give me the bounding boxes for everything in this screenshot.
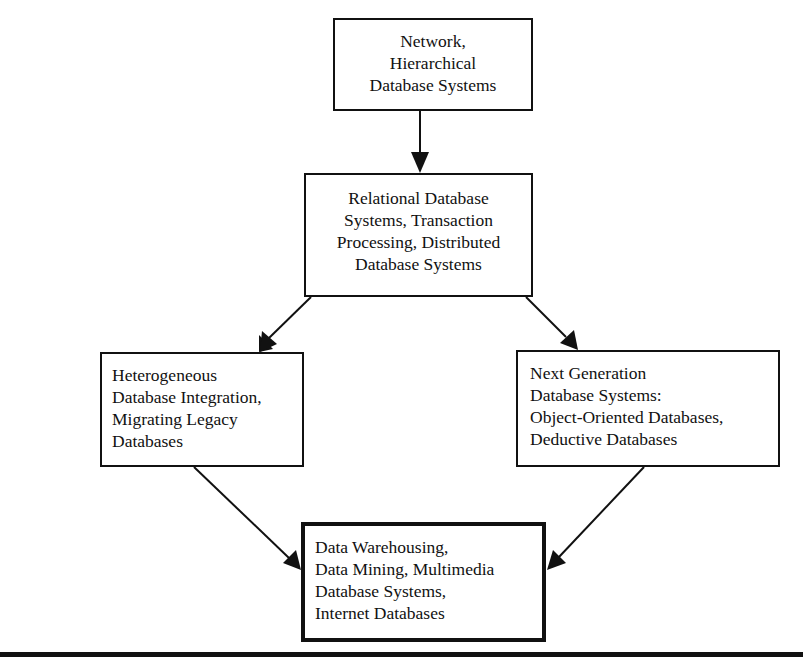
bottom-rule-divider (0, 652, 803, 657)
node-text-line: Deductive Databases (530, 428, 778, 450)
node-text-line: Relational Database (306, 187, 531, 209)
node-text-line: Migrating Legacy (112, 408, 302, 430)
node-text-line: Object-Oriented Databases, (530, 406, 778, 428)
arrow-nextgen-to-warehouse (547, 467, 644, 570)
node-heterogeneous-integration: Heterogeneous Database Integration, Migr… (100, 352, 304, 467)
node-data-warehousing: Data Warehousing, Data Mining, Multimedi… (301, 522, 546, 642)
node-text-line: Network, (335, 30, 531, 52)
node-text-line: Databases (112, 430, 302, 452)
diagram-canvas: Network, Hierarchical Database Systems R… (0, 0, 803, 668)
node-text-line: Database Systems: (530, 384, 778, 406)
node-text-line: Next Generation (530, 362, 778, 384)
node-text-line: Database Integration, (112, 386, 302, 408)
arrow-top-to-relational (411, 111, 429, 173)
node-text-line: Database Systems (335, 74, 531, 96)
arrow-relational-to-hetero (259, 297, 311, 352)
node-text-line: Internet Databases (315, 602, 542, 624)
node-next-generation-systems: Next Generation Database Systems: Object… (516, 350, 780, 467)
arrow-hetero-to-warehouse (194, 467, 301, 570)
node-text-line: Processing, Distributed (306, 231, 531, 253)
node-network-hierarchical: Network, Hierarchical Database Systems (333, 18, 533, 111)
node-text-line: Heterogeneous (112, 364, 302, 386)
node-text-line: Systems, Transaction (306, 209, 531, 231)
node-relational-database-systems: Relational Database Systems, Transaction… (304, 173, 533, 297)
node-text-line: Database Systems (306, 253, 531, 275)
node-text-line: Data Mining, Multimedia (315, 558, 542, 580)
node-text-line: Hierarchical (335, 52, 531, 74)
node-text-line: Database Systems, (315, 580, 542, 602)
arrow-relational-to-nextgen (526, 297, 578, 350)
node-text-line: Data Warehousing, (315, 536, 542, 558)
